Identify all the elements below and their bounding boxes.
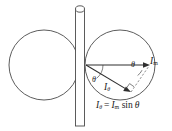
left-circle (9, 30, 79, 100)
label-theta-right: θ (131, 61, 135, 69)
vertical-rod-body (76, 9, 85, 126)
angle-arc-right (138, 70, 142, 75)
equation-equals: = (104, 100, 109, 110)
equation-function: sin (122, 100, 133, 110)
label-i-max-subscript: m (153, 60, 158, 66)
equation-i-theta: Iθ=Imsinθ (96, 101, 139, 111)
equation-lhs-subscript: θ (99, 104, 102, 110)
figure-canvas: Im Iθ θ θ Iθ=Imsinθ (0, 0, 172, 131)
label-i-max: Im (150, 57, 158, 67)
label-theta-vertex: θ (92, 76, 96, 84)
equation-rhs-subscript: m (115, 104, 120, 110)
vertical-rod-cap (76, 6, 85, 12)
equation-argument: θ (135, 100, 140, 110)
label-i-theta: Iθ (104, 83, 110, 93)
i-m-vector-arrowhead (143, 62, 150, 67)
label-i-theta-subscript: θ (107, 86, 110, 92)
vector-diagram-svg (0, 0, 172, 131)
